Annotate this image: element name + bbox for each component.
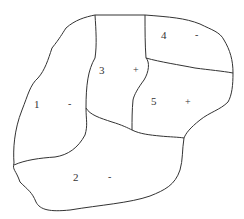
boundary-3-2 [86, 108, 132, 130]
region-2-sign: - [108, 171, 111, 182]
region-3-label: 3 [99, 64, 105, 76]
region-2-label: 2 [73, 171, 79, 183]
region-1-label: 1 [34, 98, 40, 110]
boundary-5-2 [132, 130, 184, 138]
region-5-sign: + [185, 96, 191, 107]
region-4-sign: - [195, 29, 198, 40]
region-1-sign: - [68, 98, 71, 109]
outer-boundary [13, 15, 233, 211]
boundary-4-5 [146, 58, 233, 73]
region-3-sign: + [133, 64, 139, 75]
boundary-1-2 [14, 108, 87, 165]
region-4-label: 4 [161, 29, 167, 41]
boundary-1-3 [86, 15, 96, 108]
region-5-label: 5 [151, 95, 157, 107]
region-map: 1 - 2 - 3 + 4 - 5 + [0, 0, 244, 219]
